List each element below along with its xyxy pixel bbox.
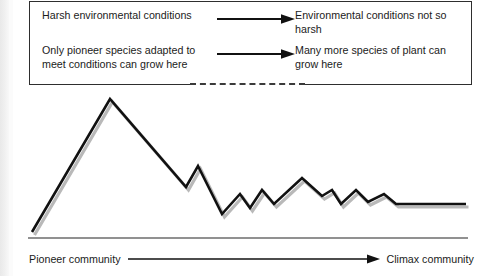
- callout-row-species: Only pioneer species adapted to meet con…: [42, 44, 470, 71]
- right-arrow-icon: [217, 47, 295, 61]
- callout-left-text-species: Only pioneer species adapted to meet con…: [42, 44, 217, 71]
- axis-end-label: Climax community: [386, 253, 473, 266]
- succession-line-chart: [0, 86, 492, 246]
- axis-label-row: Pioneer community Climax community: [29, 249, 472, 269]
- callout-right-text-conditions: Environmental conditions not so harsh: [295, 9, 470, 36]
- figure-page: Harsh environmental conditions Environme…: [0, 0, 492, 276]
- right-arrow-icon: [128, 253, 380, 265]
- axis-start-label: Pioneer community: [29, 253, 120, 266]
- callout-row-conditions: Harsh environmental conditions Environme…: [42, 9, 470, 36]
- callout-left-text-conditions: Harsh environmental conditions: [42, 9, 217, 23]
- right-arrow-icon: [217, 12, 295, 26]
- callout-right-text-species: Many more species of plant can grow here: [295, 44, 470, 71]
